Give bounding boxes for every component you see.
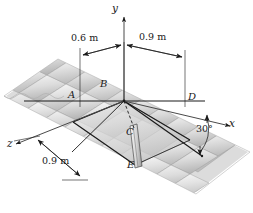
dimension-label-0-9m-bottom: 0.9 m	[42, 156, 69, 166]
point-label-d: D	[188, 92, 196, 102]
point-label-b: B	[100, 79, 107, 89]
point-label-a: A	[68, 90, 75, 100]
dimension-label-0-9m-top: 0.9 m	[139, 32, 166, 42]
dimension-label-0-6m: 0.6 m	[71, 33, 98, 43]
point-label-c: C	[126, 127, 134, 137]
angle-label-30deg: 30°	[196, 124, 213, 134]
point-marker	[201, 155, 203, 157]
point-label-e: E	[127, 160, 134, 170]
figure-canvas	[0, 0, 253, 213]
origin-marker	[123, 100, 126, 103]
y-axis-label: y	[112, 3, 118, 14]
z-axis-label: z	[7, 138, 13, 149]
x-axis-label: x	[229, 118, 235, 129]
roof-geometry-figure: y x z A B C D E 0.6 m 0.9 m 0.9 m 30°	[0, 0, 253, 213]
